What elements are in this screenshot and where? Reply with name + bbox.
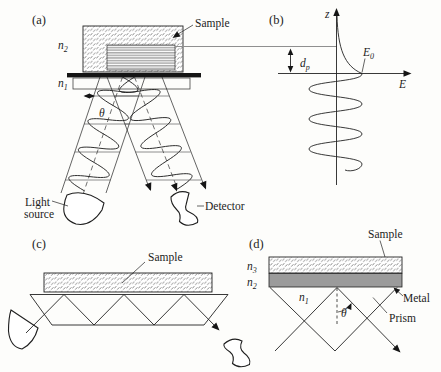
angle-arrowhead-left <box>84 93 90 98</box>
theta-label-a: θ <box>99 107 105 119</box>
panel-c: (c) Sample <box>9 237 250 367</box>
crystal-surface-bar <box>67 73 201 77</box>
sample-label-d: Sample <box>368 228 403 241</box>
dp-dimension: dp <box>288 49 310 73</box>
sample-layer-rect-d <box>269 257 402 273</box>
evanescent-decay-curve <box>337 16 362 74</box>
beam-arrowhead <box>200 181 209 191</box>
n1-label-a: n1 <box>58 77 68 92</box>
panel-b-tag: (b) <box>269 13 284 27</box>
dp-label: dp <box>300 57 310 72</box>
sample-label-a: Sample <box>195 17 230 30</box>
incidence-angle-marker: θ <box>84 93 106 119</box>
theta-arc-arrowhead <box>346 302 354 310</box>
n1-label-d: n1 <box>299 291 309 306</box>
panel-c-tag: (c) <box>32 237 46 251</box>
detector-icon-a <box>171 192 198 226</box>
n2-label-a: n2 <box>58 39 68 54</box>
n1-crystal-rect <box>73 78 190 89</box>
incident-beam-wave <box>66 71 140 197</box>
panel-d: (d) n3 n2 n1 θ Sample Metal Prism <box>247 228 430 355</box>
reflected-beam-edge-right <box>162 77 205 188</box>
dp-arrowhead-down <box>288 66 294 73</box>
z-axis-label: z <box>324 8 330 20</box>
panel-d-tag: (d) <box>249 237 264 251</box>
metal-label: Metal <box>403 292 430 304</box>
e-axis-arrowhead <box>404 70 412 76</box>
incident-beam <box>61 71 145 197</box>
panel-a: (a) n2 n1 <box>24 13 245 225</box>
light-source-icon-c <box>9 310 39 349</box>
figure-canvas: (a) n2 n1 <box>0 0 441 372</box>
standing-wave-curve <box>309 74 362 171</box>
panel-b: (b) z E dp E0 <box>175 8 412 185</box>
n3-label-d: n3 <box>247 260 257 275</box>
n2-label-d: n2 <box>247 276 257 291</box>
detector-label-a: Detector <box>205 200 245 212</box>
z-axis-arrowhead <box>333 8 339 16</box>
prism-beam-secondary <box>270 288 397 352</box>
theta-label-d: θ <box>341 307 347 319</box>
reflected-beam-edge-left <box>107 77 150 190</box>
incident-beam-edge-right <box>106 77 145 193</box>
prism-label: Prism <box>389 312 416 324</box>
metal-layer-rect <box>269 274 402 288</box>
e0-leader <box>362 59 365 73</box>
light-source-icon <box>64 193 104 225</box>
panel-a-tag: (a) <box>32 13 46 27</box>
sample-label-c: Sample <box>148 251 183 264</box>
e-axis-label: E <box>398 78 406 90</box>
detector-icon-c <box>224 339 250 367</box>
light-source-label-line2: source <box>24 208 54 220</box>
dp-arrowhead-up <box>288 49 294 56</box>
e0-label: E0 <box>362 46 374 61</box>
prism-beam-main <box>275 288 400 353</box>
beam-arrowhead <box>145 182 154 192</box>
multireflection-beam-path <box>26 295 218 334</box>
sample-hatch-rect-c <box>44 273 212 292</box>
evanescent-contact-rect <box>107 45 175 70</box>
sample-leader-d <box>380 241 385 258</box>
